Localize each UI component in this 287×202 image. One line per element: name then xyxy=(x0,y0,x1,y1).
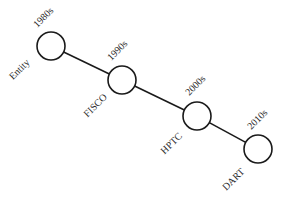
node-name-label: FISCO xyxy=(81,91,109,119)
connector-line xyxy=(209,123,245,143)
node-circle xyxy=(183,102,211,130)
decade-label: 2000s xyxy=(183,73,208,98)
decade-label: 2010s xyxy=(245,107,270,132)
node-name-label: DART xyxy=(220,166,247,193)
timeline-node-entity: 1980sEntity xyxy=(7,5,65,82)
node-circle xyxy=(244,135,272,163)
connector-line xyxy=(64,52,110,74)
timeline-diagram: 1980sEntity1990sFISCO2000sHPTC2010sDART xyxy=(0,0,287,202)
node-circle xyxy=(37,32,65,60)
timeline-nodes: 1980sEntity1990sFISCO2000sHPTC2010sDART xyxy=(7,5,272,193)
timeline-node-fisco: 1990sFISCO xyxy=(81,38,136,119)
connector-line xyxy=(135,86,185,110)
timeline-connectors xyxy=(64,52,246,142)
node-circle xyxy=(108,66,136,94)
node-name-label: Entity xyxy=(7,57,32,82)
timeline-node-hptc: 2000sHPTC xyxy=(158,73,211,156)
timeline-node-dart: 2010sDART xyxy=(220,107,272,193)
node-name-label: HPTC xyxy=(158,130,184,156)
decade-label: 1990s xyxy=(105,38,130,63)
decade-label: 1980s xyxy=(31,5,56,30)
